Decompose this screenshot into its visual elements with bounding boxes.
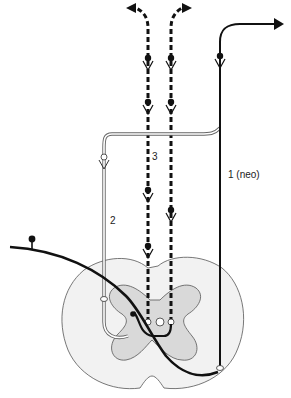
spinal-pain-pathway-diagram: 1 (neo) 2 3: [0, 0, 291, 398]
receptor-knob-icon: [29, 236, 36, 243]
label-pathway-2: 2: [110, 215, 116, 226]
arrow-up-left-icon: [126, 3, 136, 13]
arrow-right-icon: [274, 18, 284, 30]
central-canal: [156, 318, 164, 326]
label-pathway-3: 3: [152, 151, 158, 162]
arrow-up-right-icon: [182, 3, 192, 13]
label-pathway-1: 1 (neo): [228, 169, 260, 180]
